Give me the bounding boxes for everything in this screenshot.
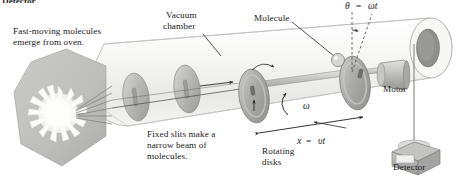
detector-label: Detector [393,162,425,172]
x-symbol: x [297,136,301,146]
rotating-disks-label-line-2: disks [262,157,281,167]
theta-equals-sign: = [356,1,361,11]
molecule-label: Molecule [254,13,290,23]
theta-symbol: θ [345,1,350,11]
oven-note-line-1: Fast-moving molecules [13,26,101,36]
leader-rotating-disks [314,122,346,128]
rotating-disks-label-line-1: Rotating [262,146,294,156]
x-equals-sign: = [306,136,311,146]
oven-note-line-2: emerge from oven. [13,37,84,47]
fixed-slits-note-line-2: narrow beam of [147,140,207,150]
vacuum-chamber-label-line-1: Vacuum [166,10,197,20]
molecule-marker [332,54,345,67]
theta-right-hand-side: ωt [368,1,378,11]
motor-label: Motor [383,84,406,94]
distance-dimension-arrow [259,117,363,133]
omega-symbol: ω [303,101,310,111]
molecular-beam-figure: Detector [0,0,460,192]
x-right-hand-side: υt [318,136,325,146]
vacuum-chamber-label-line-2: chamber [163,21,195,31]
fixed-slits-note-line-3: molecules. [147,151,188,161]
oven [14,49,112,166]
fixed-slits-note-line-1: Fixed slits make a [147,129,215,139]
